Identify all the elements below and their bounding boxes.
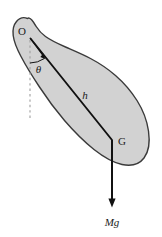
- label-force-mg: Mg: [104, 216, 120, 228]
- label-pivot-o: O: [18, 25, 26, 37]
- diagram-canvas: O θ h G Mg: [0, 0, 162, 237]
- label-angle-theta: θ: [36, 63, 42, 75]
- label-center-of-mass-g: G: [118, 135, 126, 147]
- free-body-diagram-figure: O θ h G Mg: [0, 0, 162, 237]
- label-distance-h: h: [82, 89, 88, 101]
- rigid-body-shape: [13, 18, 149, 165]
